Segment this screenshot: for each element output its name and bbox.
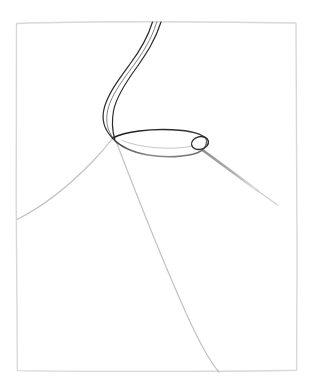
background — [0, 0, 310, 381]
illustration-canvas — [0, 0, 310, 381]
needle-thread-diagram — [0, 0, 310, 381]
